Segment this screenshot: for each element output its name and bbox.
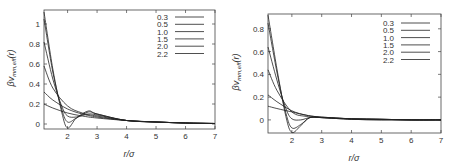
x-tick-label: 7 — [213, 132, 218, 141]
x-tick-label: 7 — [439, 136, 444, 145]
right-x-axis-ticks: 234567 — [290, 14, 444, 145]
y-tick-label: 0.2 — [253, 93, 265, 102]
left-curves — [44, 12, 215, 128]
x-tick-label: 4 — [124, 132, 129, 141]
figure-two-panel-potential-plots: 234567 00.20.40.60.81 0.30.51.01.52.02.2… — [0, 0, 450, 165]
y-tick-label: 0.8 — [29, 40, 41, 49]
left-plot-frame — [44, 10, 215, 129]
y-tick-label: 0 — [36, 120, 41, 129]
curve-1-5 — [268, 47, 441, 120]
y-tick-label: 0.2 — [29, 100, 41, 109]
x-tick-label: 6 — [183, 132, 188, 141]
curve-2-2 — [268, 15, 441, 133]
right-curves — [268, 15, 441, 133]
curve-1-0 — [44, 66, 215, 124]
y-tick-label: 0 — [260, 116, 265, 125]
right-legend: 0.30.51.01.52.02.2 — [383, 19, 430, 65]
y-tick-label: 0.6 — [253, 48, 265, 57]
x-tick-label: 5 — [154, 132, 159, 141]
legend-label: 2.2 — [383, 56, 395, 65]
x-tick-label: 3 — [319, 136, 324, 145]
left-y-axis-label: βvmm,eff(r) — [6, 50, 17, 88]
y-tick-label: 1 — [36, 20, 41, 29]
x-tick-label: 5 — [379, 136, 384, 145]
left-chart-panel: 234567 00.20.40.60.81 0.30.51.01.52.02.2… — [6, 10, 218, 159]
curve-0-5 — [268, 95, 441, 120]
x-tick-label: 4 — [349, 136, 354, 145]
y-tick-label: 0.4 — [253, 70, 265, 79]
right-y-axis-label: βvmm,eff(r) — [231, 54, 242, 92]
x-tick-label: 6 — [409, 136, 414, 145]
x-tick-label: 2 — [290, 136, 295, 145]
right-x-axis-label: r/σ — [349, 153, 360, 163]
y-tick-label: 0.8 — [253, 25, 265, 34]
right-plot-frame — [268, 14, 441, 133]
y-tick-label: 0.4 — [29, 80, 41, 89]
left-x-axis-label: r/σ — [124, 149, 135, 159]
curve-2-2 — [44, 12, 215, 128]
left-legend: 0.30.51.01.52.02.2 — [157, 13, 204, 59]
right-chart-panel: 234567 00.20.40.60.8 0.30.51.01.52.02.2 … — [231, 14, 444, 163]
y-tick-label: 0.6 — [29, 60, 41, 69]
x-tick-label: 2 — [65, 132, 70, 141]
legend-label: 2.2 — [157, 50, 169, 59]
curve-1-5 — [44, 42, 215, 124]
left-y-axis-ticks: 00.20.40.60.81 — [29, 20, 215, 129]
x-tick-label: 3 — [95, 132, 100, 141]
